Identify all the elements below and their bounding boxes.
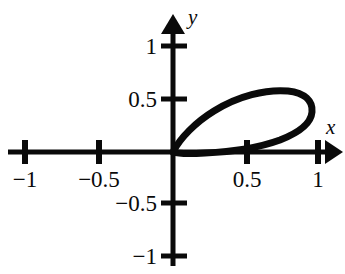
loop-curve — [173, 91, 312, 154]
y-axis-label: y — [188, 7, 197, 28]
coordinate-plot — [0, 0, 345, 274]
plot-figure: −1 −0.5 0.5 1 1 0.5 −0.5 −1 x y — [0, 0, 345, 274]
x-tick-label-neg1: −1 — [13, 168, 37, 191]
x-tick-label-neg0-5: −0.5 — [78, 168, 120, 191]
y-tick-label-neg0-5: −0.5 — [115, 192, 157, 215]
x-axis-label: x — [326, 117, 335, 138]
x-axis-arrowhead — [325, 140, 343, 164]
y-tick-label-neg1: −1 — [133, 245, 157, 268]
x-tick-label-0-5: 0.5 — [233, 168, 262, 191]
y-tick-label-0-5: 0.5 — [128, 88, 157, 111]
y-tick-label-1: 1 — [146, 35, 158, 58]
x-tick-label-1: 1 — [312, 168, 324, 191]
y-axis-arrowhead — [161, 14, 185, 34]
